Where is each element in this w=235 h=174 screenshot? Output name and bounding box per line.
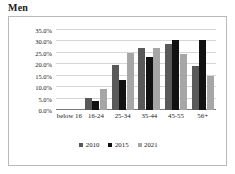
y-tick-label: 5.0% <box>38 95 52 102</box>
legend-label: 2015 <box>115 141 129 149</box>
x-tick-label: 25-34 <box>109 112 136 121</box>
y-tick-label: 15.0% <box>35 72 52 79</box>
bar <box>100 89 107 110</box>
chart-frame: 0.0%5.0%10.0%15.0%20.0%25.0%30.0%35.0% b… <box>8 16 227 166</box>
legend-item[interactable]: 2021 <box>138 141 158 149</box>
page-title: Men <box>8 2 28 14</box>
bar <box>153 48 160 110</box>
y-tick-label: 35.0% <box>35 27 52 34</box>
x-tick-label: below 16 <box>56 112 83 121</box>
bar-group <box>189 30 216 110</box>
bar-group <box>136 30 163 110</box>
bar <box>85 98 92 110</box>
y-axis: 0.0%5.0%10.0%15.0%20.0%25.0%30.0%35.0% <box>9 30 54 110</box>
bar-group <box>163 30 190 110</box>
y-tick-label: 30.0% <box>35 38 52 45</box>
y-tick-label: 10.0% <box>35 84 52 91</box>
y-tick-label: 0.0% <box>38 107 52 114</box>
plot-area <box>56 30 216 110</box>
y-tick-label: 25.0% <box>35 49 52 56</box>
legend-item[interactable]: 2010 <box>79 141 99 149</box>
bar <box>146 57 153 110</box>
x-tick-label: 45-55 <box>163 112 190 121</box>
x-tick-label: 35-44 <box>136 112 163 121</box>
chart-legend: 201020152021 <box>9 141 228 149</box>
chart-figure: Men 0.0%5.0%10.0%15.0%20.0%25.0%30.0%35.… <box>0 0 235 174</box>
legend-swatch-icon <box>108 143 112 147</box>
bar <box>112 65 119 110</box>
bar-group <box>83 30 110 110</box>
x-axis: below 1616-2425-3435-4445-5556+ <box>56 112 216 138</box>
bar <box>180 54 187 110</box>
x-tick-label: 16-24 <box>83 112 110 121</box>
bar <box>92 101 99 110</box>
bar <box>192 66 199 110</box>
legend-label: 2021 <box>144 141 158 149</box>
bar <box>199 40 206 110</box>
legend-label: 2010 <box>86 141 100 149</box>
x-tick-label: 56+ <box>189 112 216 121</box>
bar-group <box>109 30 136 110</box>
legend-item[interactable]: 2015 <box>108 141 128 149</box>
legend-swatch-icon <box>79 143 83 147</box>
bar <box>165 44 172 110</box>
bar <box>127 53 134 110</box>
legend-swatch-icon <box>138 143 142 147</box>
y-tick-label: 20.0% <box>35 61 52 68</box>
bar-group <box>56 30 83 110</box>
bar <box>172 40 179 110</box>
bar <box>138 48 145 110</box>
bar <box>119 80 126 110</box>
bar <box>207 76 214 110</box>
